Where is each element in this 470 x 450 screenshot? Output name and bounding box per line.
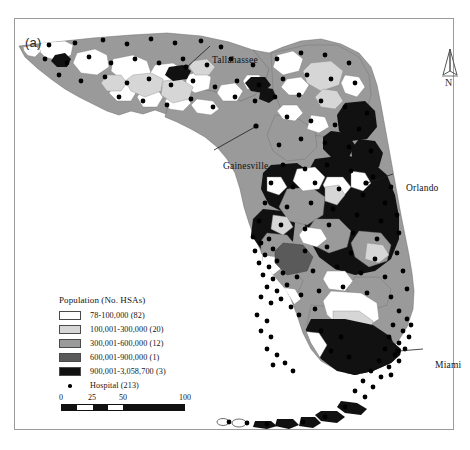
- city-label-miami: Miami: [435, 360, 461, 370]
- scale-segment: [108, 405, 123, 410]
- legend-title: Population (No. HSAs): [59, 295, 239, 305]
- legend-row: 78-100,000 (82): [59, 309, 239, 322]
- scale-bar-graphic: Miles: [61, 404, 185, 411]
- city-label-tallahassee: Tallahassee: [212, 55, 258, 65]
- north-arrow-icon: [439, 47, 465, 81]
- legend-swatch: [59, 325, 81, 334]
- scale-segment: [93, 405, 108, 410]
- legend-label: 600,001-900,000 (1): [90, 353, 159, 362]
- north-arrow-letter: N: [445, 77, 452, 88]
- scale-segment: [77, 405, 92, 410]
- legend-label: Hospital (213): [90, 381, 139, 390]
- map-frame: (a) Tallahassee Gainesville Orlando Miam…: [14, 18, 454, 430]
- legend-swatch: [59, 367, 81, 376]
- panel-label: (a): [25, 35, 42, 50]
- legend-label: 100,001-300,000 (20): [90, 325, 164, 334]
- legend-row-hospital: Hospital (213): [59, 379, 239, 392]
- figure-panel: (a) Tallahassee Gainesville Orlando Miam…: [0, 0, 470, 450]
- scale-tick: 0: [59, 393, 63, 402]
- legend-label: 300,001-600,000 (12): [90, 339, 164, 348]
- legend-swatch: [59, 353, 81, 362]
- legend-row: 100,001-300,000 (20): [59, 323, 239, 336]
- hospital-point-icon: [59, 381, 81, 390]
- scale-tick: 100: [179, 393, 191, 402]
- north-arrow: N: [439, 47, 465, 93]
- legend-swatch: [59, 339, 81, 348]
- map-legend: Population (No. HSAs) 78-100,000 (82) 10…: [59, 295, 239, 393]
- legend-row: 300,001-600,000 (12): [59, 337, 239, 350]
- scale-tick-labels: 0 25 50 100: [61, 393, 211, 404]
- legend-label: 900,001-3,058,700 (3): [90, 367, 166, 376]
- city-label-gainesville: Gainesville: [223, 161, 268, 171]
- city-label-orlando: Orlando: [406, 183, 439, 193]
- legend-label: 78-100,000 (82): [90, 311, 145, 320]
- scale-segment: [123, 405, 184, 410]
- scale-tick: 50: [119, 393, 127, 402]
- scale-tick: 25: [88, 393, 96, 402]
- legend-swatch: [59, 311, 81, 320]
- scale-bar: 0 25 50 100 Miles: [61, 393, 211, 411]
- legend-row: 600,001-900,000 (1): [59, 351, 239, 364]
- legend-row: 900,001-3,058,700 (3): [59, 365, 239, 378]
- scale-segment: [62, 405, 77, 410]
- hsa-class-1-areas-southwest: [261, 319, 303, 371]
